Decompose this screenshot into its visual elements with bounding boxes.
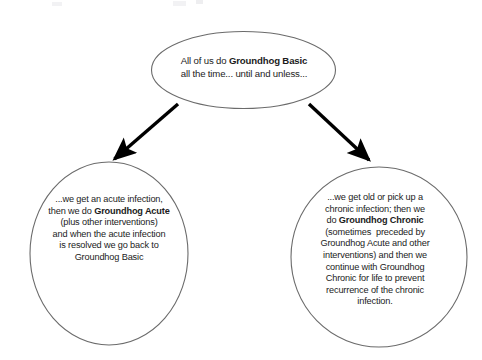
label-run: recurrence of the chronic xyxy=(326,285,424,295)
label-line: and when the acute infection xyxy=(33,229,185,241)
label-line: Groundhog Basic xyxy=(33,252,185,264)
label-run: ...we get old or pick up a xyxy=(327,192,423,202)
label-run: and when the acute infection xyxy=(53,229,166,239)
label-emphasis: Groundhog Basic xyxy=(229,55,307,66)
label-run: all the time... until and unless... xyxy=(181,68,307,79)
label-line: recurrence of the chronic xyxy=(296,285,454,297)
label-run: then we do xyxy=(48,206,94,216)
node-chronic-label: ...we get old or pick up achronic infect… xyxy=(296,192,454,308)
label-run: (plus other interventions) xyxy=(60,217,157,227)
label-run: interventions) and then we xyxy=(323,250,427,260)
label-line: is resolved we go back to xyxy=(33,240,185,252)
label-run: chronic infection; then we xyxy=(325,204,425,214)
label-line: continue with Groundhog xyxy=(296,262,454,274)
label-line: interventions) and then we xyxy=(296,250,454,262)
label-line: all the time... until and unless... xyxy=(156,68,332,81)
label-run: is resolved we go back to xyxy=(59,240,158,250)
diagram-canvas: All of us do Groundhog Basicall the time… xyxy=(0,0,482,360)
label-line: infection. xyxy=(296,296,454,308)
label-line: Chronic for life to prevent xyxy=(296,273,454,285)
edge-basic-to-acute xyxy=(115,104,179,159)
label-line: ...we get an acute infection, xyxy=(33,194,185,206)
label-run: ...we get an acute infection, xyxy=(55,194,163,204)
label-run: do xyxy=(326,215,338,225)
node-acute-label: ...we get an acute infection,then we do … xyxy=(33,194,185,264)
label-line: then we do Groundhog Acute xyxy=(33,206,185,218)
label-line: chronic infection; then we xyxy=(296,204,454,216)
edge-basic-to-chronic xyxy=(309,104,369,160)
label-run: Groundhog Basic xyxy=(75,252,144,262)
label-line: (sometimes preceded by xyxy=(296,227,454,239)
label-line: ...we get old or pick up a xyxy=(296,192,454,204)
label-line: Groundhog Acute and other xyxy=(296,238,454,250)
node-basic-label: All of us do Groundhog Basicall the time… xyxy=(156,55,332,80)
label-run: All of us do xyxy=(181,55,229,66)
label-emphasis: Groundhog Acute xyxy=(94,206,170,216)
label-run: Groundhog Acute and other xyxy=(320,238,429,248)
label-run: Chronic for life to prevent xyxy=(326,273,425,283)
label-line: All of us do Groundhog Basic xyxy=(156,55,332,68)
label-run: (sometimes preceded by xyxy=(325,227,425,237)
label-line: (plus other interventions) xyxy=(33,217,185,229)
label-run: continue with Groundhog xyxy=(326,262,425,272)
label-emphasis: Groundhog Chronic xyxy=(339,215,424,225)
label-run: infection. xyxy=(357,296,392,306)
label-line: do Groundhog Chronic xyxy=(296,215,454,227)
